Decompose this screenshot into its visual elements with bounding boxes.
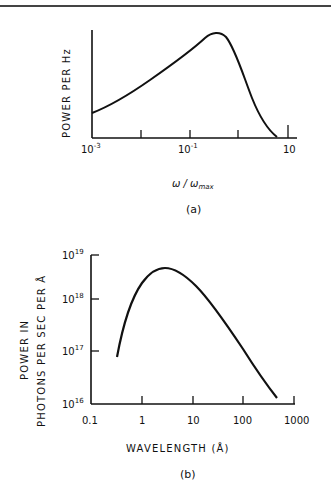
- panel-b-xtick-1: 1: [139, 415, 145, 426]
- panel-b-xtick-1000: 1000: [284, 415, 309, 426]
- panel-b-y-ticks: [91, 255, 99, 351]
- panel-a-x-ticks: [141, 125, 288, 138]
- panel-a-xtick-1e-3: 10-3: [81, 142, 101, 155]
- panel-a-curve: [92, 33, 277, 137]
- panel-b-xlabel: WAVELENGTH (Å): [126, 442, 230, 454]
- panel-b-xtick-0.1: 0.1: [82, 415, 98, 426]
- panel-b-xtick-10: 10: [187, 415, 200, 426]
- figure-canvas: POWER PER Hz 10-3 10-1 10 ω / ωmax (a) P…: [0, 0, 331, 501]
- panel-b-curve: [117, 268, 277, 398]
- panel-a-xlabel: ω / ωmax: [172, 178, 215, 191]
- panel-b-ytick-1e16: 1016: [62, 397, 84, 410]
- panel-a-xtick-1e-1: 10-1: [178, 142, 198, 155]
- panel-b-x-ticks: [142, 396, 294, 404]
- panel-b-ytick-1e19: 1019: [62, 248, 84, 261]
- panel-b: POWER IN PHOTONS PER SEC PER Å 1019 1018…: [19, 248, 309, 481]
- panel-a-xtick-10: 10: [283, 144, 296, 155]
- panel-b-ytick-1e18: 1018: [62, 292, 84, 305]
- panel-a: POWER PER Hz 10-3 10-1 10 ω / ωmax (a): [61, 30, 297, 216]
- panel-b-ylabel-line2: PHOTONS PER SEC PER Å: [35, 275, 47, 427]
- panel-b-xtick-100: 100: [233, 415, 252, 426]
- panel-a-caption: (a): [186, 203, 201, 216]
- panel-b-ylabel-line1: POWER IN: [19, 320, 30, 380]
- panel-b-caption: (b): [180, 468, 196, 481]
- panel-a-ylabel: POWER PER Hz: [61, 48, 72, 138]
- panel-b-ytick-1e17: 1017: [62, 344, 84, 357]
